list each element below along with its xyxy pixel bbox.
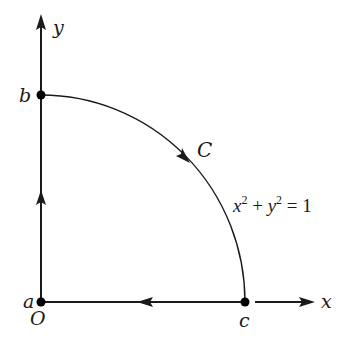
curve-equation: x2 + y2 = 1 — [232, 193, 312, 216]
contour-diagram: y x b a O c C x2 + y2 = 1 — [0, 0, 350, 344]
point-a — [37, 298, 46, 307]
equation-rhs: = 1 — [282, 195, 312, 216]
arc-direction-arrow-icon — [176, 148, 190, 163]
x-axis-label: x — [321, 290, 332, 312]
equation-plus: + — [247, 195, 267, 216]
curve-label: C — [197, 138, 212, 162]
equation-y: y — [266, 195, 277, 216]
point-c-label: c — [239, 309, 250, 331]
origin-label: O — [30, 307, 46, 329]
y-axis-label: y — [52, 16, 64, 38]
diagram-svg: y x b a O c C x2 + y2 = 1 — [0, 0, 350, 344]
point-c — [241, 298, 250, 307]
arc-curve-c — [41, 95, 245, 302]
point-b-label: b — [19, 84, 31, 106]
point-b — [37, 91, 46, 100]
